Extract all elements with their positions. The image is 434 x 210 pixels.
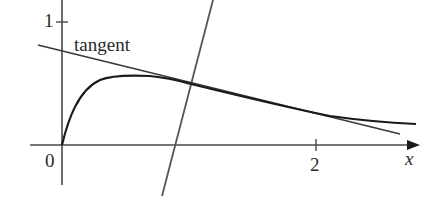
tangent-label: tangent: [74, 35, 130, 54]
x-axis-label: x: [405, 149, 413, 168]
x-tick-label-2: 2: [310, 155, 320, 174]
diagram-svg: [0, 0, 434, 210]
y-tick-label-1: 1: [44, 11, 54, 30]
origin-label: 0: [45, 151, 55, 170]
curve: [62, 75, 416, 145]
tangent-line: [38, 45, 400, 134]
diagram-canvas: 1 tangent 0 2 x: [0, 0, 434, 210]
normal-line: [162, 0, 213, 196]
